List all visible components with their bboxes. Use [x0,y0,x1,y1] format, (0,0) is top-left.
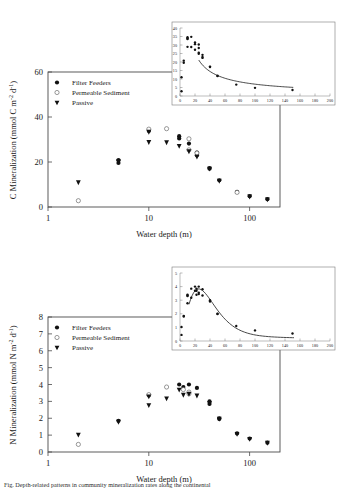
x-axis-ticks-n: 1 10 100 [46,452,256,468]
data-point-triangle [164,396,169,401]
data-point-filled-circle [186,38,188,40]
data-point-triangle [177,144,182,149]
data-point-filled-circle [177,382,181,386]
data-point-filled-circle [194,49,196,51]
inset-xtick-label: 100 [252,98,258,103]
data-point-triangle [195,394,200,399]
data-point-open-circle [164,385,168,389]
ytick-label-n: 2 [39,413,43,423]
data-point-filled-circle [186,302,188,304]
legend-label-filter-feeders: Filter Feeders [72,79,111,87]
legend-marker-filter-feeders [55,80,59,84]
data-point-filled-circle [194,285,196,287]
inset-xtick-label: 0 [179,343,181,348]
data-point-filled-circle [198,285,200,287]
ytick-label-n: 1 [39,430,43,440]
x-axis-ticks: 1 10 100 [46,207,256,223]
data-point-filled-circle [209,66,211,68]
data-point-filled-circle [198,53,200,55]
inset-xtick-label: 180 [312,343,318,348]
n-mineralization-svg: 012345678 1 10 100 Water depth (m) N Min… [0,245,341,490]
legend-marker-permeable-sediment [55,90,59,94]
data-point-filled-circle [254,87,256,89]
ytick-label-n: 7 [39,329,43,339]
ytick-label-n: 6 [39,346,43,356]
data-point-filled-circle [180,326,182,328]
xtick-label-10: 10 [145,213,154,223]
figure-caption-strip: Fig. Depth-related patterns in community… [0,481,341,490]
inset-xtick-label: 20 [193,98,197,103]
data-point-open-circle [235,190,239,194]
y-axis-ticks: 0 20 40 60 [35,67,53,212]
inset-xtick-label: 140 [282,98,288,103]
inset-xtick-label: 40 [208,343,212,348]
data-point-filled-circle [180,90,182,92]
inset-ytick-label: 40 [173,26,177,31]
inset-xtick-label: 40 [208,98,212,103]
ytick-label-20: 20 [35,157,44,167]
data-point-filled-circle [190,46,192,48]
xtick-label-1-n: 1 [46,458,50,468]
legend-marker-filter-feeders-n [55,325,59,329]
y-axis-title-end-n: ) [8,325,18,328]
svg-text:C Mineralization (mmol C m-2 d: C Mineralization (mmol C m-2 d-1) [8,81,18,200]
y-axis-title-end: ) [8,81,18,84]
inset-ytick-label: 5 [175,271,177,276]
data-point-filled-circle [190,287,192,289]
legend-marker-passive-n [55,346,60,350]
ytick-label-n: 4 [39,380,44,390]
xtick-label-10-n: 10 [145,458,154,468]
legend-top: Filter Feeders Permeable Sediment Passiv… [55,79,130,107]
data-point-filled-circle [183,315,185,317]
y-axis-title-main: C Mineralization (mmol C m [8,100,18,200]
data-point-filled-circle [201,57,203,59]
data-point-filled-circle [186,46,188,48]
figure-container: 0 20 40 60 1 10 100 Water depth (m) C Mi… [0,0,341,490]
xtick-label-100-n: 100 [243,458,256,468]
legend-label-passive-n: Passive [72,344,93,352]
data-point-filled-circle [235,83,237,85]
data-point-filled-circle [201,54,203,56]
data-point-open-circle [164,127,168,131]
inset-xtick-label: 0 [179,98,181,103]
data-point-filled-circle [187,382,191,386]
inset-xtick-label: 200 [327,98,333,103]
y-axis-title-main-n: N Mineralization (mmol N m [8,344,18,444]
data-point-triangle [146,403,151,408]
data-point-open-circle [181,387,185,391]
inset-ytick-label: 5 [175,85,177,90]
inset-ytick-label: 25 [173,51,177,56]
data-point-triangle [116,420,121,425]
inset-xtick-label: 160 [297,343,303,348]
data-point-filled-circle [195,294,197,296]
inset-xtick-label: 160 [297,98,303,103]
xtick-label-100: 100 [243,213,256,223]
c-mineralization-inset: 0510152025303540 02040608010012014016018… [172,22,335,105]
inset-background-n [172,267,335,350]
y-axis-ticks-n: 012345678 [39,312,52,457]
data-point-open-circle [76,199,80,203]
inset-ytick-label: 20 [173,60,177,65]
data-point-triangle [76,180,81,185]
svg-text:N Mineralization (mmol N m-2 d: N Mineralization (mmol N m-2 d-1) [8,325,18,444]
data-point-triangle [164,140,169,145]
data-point-triangle [146,394,151,399]
y-axis-title: C Mineralization (mmol C m-2 d-1) [8,81,18,200]
panel-n-mineralization: 012345678 1 10 100 Water depth (m) N Min… [0,245,341,490]
ytick-label-n: 5 [39,363,43,373]
data-point-filled-circle [198,43,200,45]
data-point-filled-circle [183,59,185,61]
x-axis-title: Water depth (m) [136,229,192,239]
data-point-triangle [195,155,200,160]
inset-xtick-label: 80 [238,98,242,103]
legend-label-filter-feeders-n: Filter Feeders [72,324,111,332]
data-point-filled-circle [195,386,199,390]
inset-xtick-label: 100 [252,343,258,348]
inset-xtick-label: 140 [282,343,288,348]
inset-xtick-label: 120 [267,343,273,348]
c-main-data-points [76,127,270,203]
inset-ytick-label: 2 [175,311,177,316]
legend-label-permeable-sediment: Permeable Sediment [72,89,130,97]
data-point-filled-circle [177,136,181,140]
panel-c-mineralization: 0 20 40 60 1 10 100 Water depth (m) C Mi… [0,0,341,245]
